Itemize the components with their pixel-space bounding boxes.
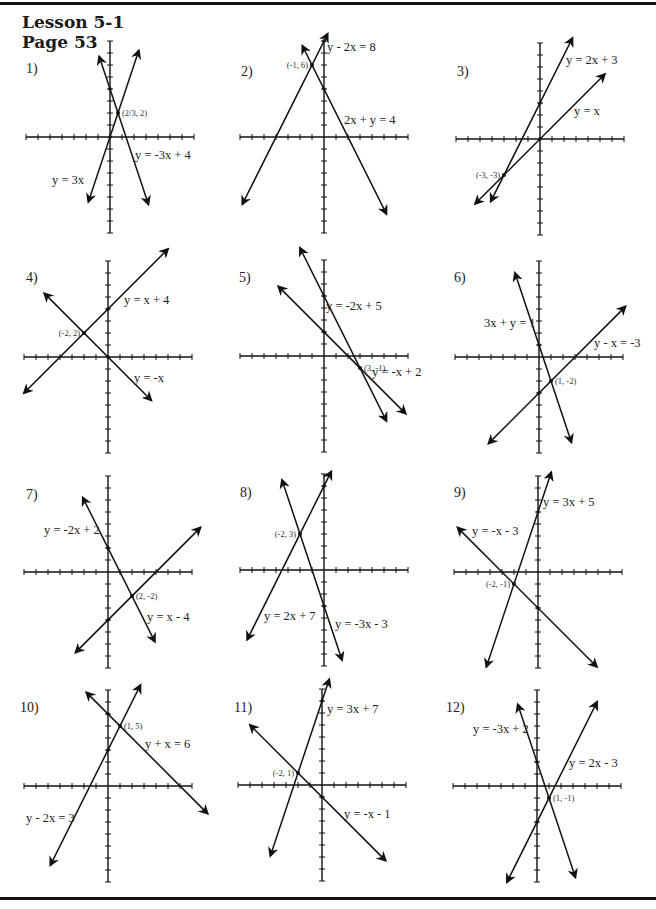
graph-panel-9: (-2, -1)y = 3x + 5y = -x - 3 bbox=[454, 472, 622, 668]
y-intercept-dot bbox=[536, 606, 540, 610]
plotted-line bbox=[242, 34, 327, 204]
equation-label: y + x = 6 bbox=[145, 737, 190, 751]
y-intercept-dot bbox=[322, 484, 326, 488]
equation-label: y = -x bbox=[134, 371, 165, 385]
plotted-line bbox=[99, 57, 148, 205]
problem-number: 6) bbox=[454, 270, 466, 286]
equation-label: y - x = -3 bbox=[594, 336, 641, 350]
equation-label: y = -3x + 4 bbox=[135, 148, 192, 162]
y-intercept-dot bbox=[106, 712, 110, 716]
graph-panel-3: (-3, -3)y = 2x + 3y = x bbox=[456, 38, 624, 235]
equation-label: y = -2x + 2 bbox=[44, 523, 100, 537]
intersection-point bbox=[547, 796, 551, 800]
equation-label: y = 3x + 5 bbox=[543, 495, 595, 509]
graph-panel-8: (-2, 3)y = 2x + 7y = -3x - 3 bbox=[240, 472, 408, 666]
equation-label: y = 3x + 7 bbox=[327, 702, 379, 716]
intersection-label: (1, 5) bbox=[124, 721, 143, 731]
equation-label: 2x + y = 4 bbox=[344, 113, 396, 127]
graph-panel-11: (-2, 1)y = 3x + 7y = -x - 1 bbox=[238, 679, 406, 881]
intersection-point bbox=[118, 724, 122, 728]
equation-label: y = x - 4 bbox=[147, 610, 190, 624]
equation-label: y = -x - 3 bbox=[472, 524, 519, 538]
equation-label: y = -3x - 3 bbox=[335, 617, 388, 631]
problem-number: 9) bbox=[454, 485, 466, 501]
y-intercept-dot bbox=[322, 294, 326, 298]
intersection-point bbox=[82, 331, 86, 335]
y-intercept-dot bbox=[538, 137, 542, 141]
equation-label: y = 2x + 3 bbox=[566, 53, 618, 67]
y-intercept-dot bbox=[322, 604, 326, 608]
equation-label: y = -3x + 2 bbox=[473, 722, 529, 736]
y-intercept-dot bbox=[106, 546, 110, 550]
intersection-point bbox=[549, 379, 553, 383]
y-intercept-dot bbox=[322, 87, 326, 91]
plotted-line bbox=[486, 472, 551, 666]
bottom-border-rule bbox=[0, 897, 656, 900]
intersection-point bbox=[298, 532, 302, 536]
equation-label: y = 2x - 3 bbox=[569, 756, 618, 770]
intersection-point bbox=[130, 594, 134, 598]
graph-panel-5: (3, -1)y = -2x + 5y = -x + 2 bbox=[240, 248, 422, 452]
y-intercept-dot bbox=[537, 343, 541, 347]
equation-label: y - 2x = 8 bbox=[327, 40, 376, 54]
equation-label: y = x bbox=[574, 104, 601, 118]
y-intercept-dot bbox=[108, 135, 112, 139]
intersection-label: (-1, 6) bbox=[287, 60, 308, 70]
intersection-label: (1, -2) bbox=[555, 376, 576, 386]
intersection-point bbox=[512, 582, 516, 586]
intersection-point bbox=[310, 63, 314, 67]
y-intercept-dot bbox=[106, 355, 110, 359]
problem-number: 10) bbox=[20, 700, 39, 716]
intersection-label: (1, -1) bbox=[553, 793, 574, 803]
plotted-line bbox=[250, 725, 386, 861]
problem-number: 8) bbox=[240, 485, 252, 501]
problem-number: 7) bbox=[26, 487, 38, 503]
y-intercept-dot bbox=[536, 510, 540, 514]
intersection-label: (-2, 3) bbox=[275, 529, 296, 539]
equation-label: y = 3x bbox=[52, 173, 85, 187]
intersection-point bbox=[358, 366, 362, 370]
intersection-label: (-3, -3) bbox=[476, 170, 500, 180]
y-intercept-dot bbox=[538, 101, 542, 105]
intersection-label: (-2, 2) bbox=[59, 328, 80, 338]
problem-number: 11) bbox=[234, 700, 252, 716]
graph-panel-7: (2, -2)y = -2x + 2y = x - 4 bbox=[24, 476, 200, 668]
intersection-label: (-2, -1) bbox=[486, 579, 510, 589]
equation-label: y = -x - 1 bbox=[344, 807, 391, 821]
graph-panel-4: (-2, 2)y = x + 4y = -x bbox=[24, 249, 192, 453]
plotted-line bbox=[302, 46, 386, 214]
graph-panel-6: (1, -2)3x + y = 1y - x = -3 bbox=[455, 261, 641, 453]
graph-panel-2: (-1, 6)y - 2x = 82x + y = 4 bbox=[240, 34, 408, 233]
y-intercept-dot bbox=[106, 307, 110, 311]
problem-number: 1) bbox=[26, 61, 38, 77]
y-intercept-dot bbox=[320, 699, 324, 703]
plotted-line bbox=[300, 248, 386, 421]
y-intercept-dot bbox=[537, 391, 541, 395]
equation-label: 3x + y = 1 bbox=[484, 316, 536, 330]
equation-label: y = 2x + 7 bbox=[264, 609, 316, 623]
graph-panel-10: (1, 5)y + x = 6y - 2x = 3 bbox=[24, 685, 208, 882]
equation-label: y = x + 4 bbox=[124, 293, 170, 307]
y-intercept-dot bbox=[106, 748, 110, 752]
intersection-label: (2, -2) bbox=[136, 591, 157, 601]
intersection-label: (2/3, 2) bbox=[122, 108, 147, 118]
plotted-line bbox=[76, 528, 201, 653]
graph-panel-12: (1, -1)y = -3x + 2y = 2x - 3 bbox=[453, 690, 621, 882]
plotted-line bbox=[458, 528, 597, 667]
equation-label: y - 2x = 3 bbox=[26, 811, 75, 825]
equation-label: y = -x + 2 bbox=[372, 365, 422, 379]
y-intercept-dot bbox=[106, 618, 110, 622]
y-intercept-dot bbox=[535, 760, 539, 764]
equation-label: y = -2x + 5 bbox=[326, 299, 382, 313]
y-intercept-dot bbox=[322, 330, 326, 334]
plotted-line bbox=[50, 685, 140, 865]
problem-number: 3) bbox=[457, 64, 469, 80]
y-intercept-dot bbox=[320, 795, 324, 799]
intersection-point bbox=[116, 111, 120, 115]
plotted-line bbox=[88, 51, 138, 202]
intersection-label: (-2, 1) bbox=[273, 768, 294, 778]
y-intercept-dot bbox=[108, 87, 112, 91]
plotted-line bbox=[86, 692, 207, 813]
intersection-point bbox=[502, 173, 506, 177]
problem-number: 2) bbox=[241, 64, 253, 80]
